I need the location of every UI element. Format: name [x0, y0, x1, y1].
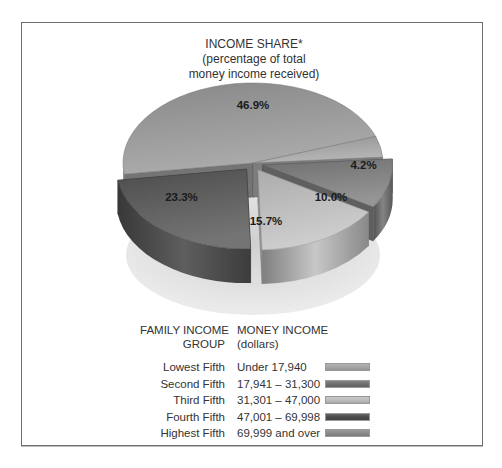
slice-label-third-fifth: 15.7%	[250, 215, 283, 227]
slice-label-fourth-fifth: 23.3%	[165, 191, 198, 203]
slice-label-highest-fifth: 46.9%	[237, 99, 270, 111]
slice-label-lowest-fifth: 4.2%	[350, 159, 376, 171]
pie-chart: 46.9%4.2%10.0%15.7%23.3%	[0, 0, 502, 468]
slice-label-second-fifth: 10.0%	[315, 191, 348, 203]
